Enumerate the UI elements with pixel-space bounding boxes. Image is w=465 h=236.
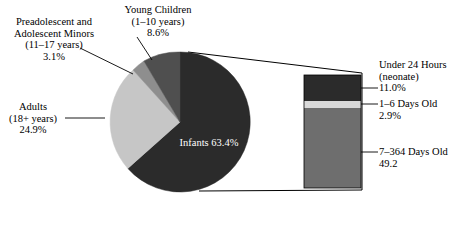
label-infants-line2: 63.4% — [211, 137, 238, 148]
label-adults-line1: Adults — [2, 101, 64, 113]
label-infants: Infants 63.4% — [178, 137, 240, 149]
inset-segment-1-6-days[interactable] — [304, 101, 361, 108]
label-7-364-days-line1: 7–364 Days Old — [379, 146, 465, 158]
inset-stacked-bar — [304, 75, 361, 188]
label-preadolescent-line1: Preadolescent and — [0, 16, 108, 28]
label-7-364-days-line2: 49.2 — [379, 158, 465, 170]
label-7-364-days-old: 7–364 Days Old 49.2 — [379, 146, 465, 169]
label-neonate-line3: 11.0% — [379, 82, 465, 94]
label-young-children-line1: Young Children — [102, 4, 214, 16]
inset-label-leader-lines — [361, 88, 378, 152]
label-young-children: Young Children (1–10 years) 8.6% — [102, 4, 214, 39]
label-infants-line1: Infants — [180, 137, 209, 148]
label-under-24-hours: Under 24 Hours (neonate) 11.0% — [379, 59, 465, 94]
label-1-6-days-line1: 1–6 Days Old — [379, 98, 465, 110]
label-young-children-line2: (1–10 years) — [102, 16, 214, 28]
label-preadolescent-minors: Preadolescent and Adolescent Minors (11–… — [0, 16, 108, 62]
inset-segment-7-364-days[interactable] — [304, 108, 361, 188]
label-preadolescent-line4: 3.1% — [0, 51, 108, 63]
label-young-children-line3: 8.6% — [102, 27, 214, 39]
label-preadolescent-line2: Adolescent Minors — [0, 28, 108, 40]
label-neonate-line1: Under 24 Hours — [379, 59, 465, 71]
label-1-6-days-line2: 2.9% — [379, 110, 465, 122]
label-adults-line2: (18+ years) — [2, 113, 64, 125]
label-1-6-days-old: 1–6 Days Old 2.9% — [379, 98, 465, 121]
label-neonate-line2: (neonate) — [379, 71, 465, 83]
inset-segment-under-24-hours[interactable] — [304, 75, 361, 101]
pie-chart-figure: Young Children (1–10 years) 8.6% Preadol… — [0, 0, 465, 236]
label-adults-line3: 24.9% — [2, 124, 64, 136]
leader-young-children — [137, 37, 152, 60]
label-adults: Adults (18+ years) 24.9% — [2, 101, 64, 136]
label-preadolescent-line3: (11–17 years) — [0, 39, 108, 51]
